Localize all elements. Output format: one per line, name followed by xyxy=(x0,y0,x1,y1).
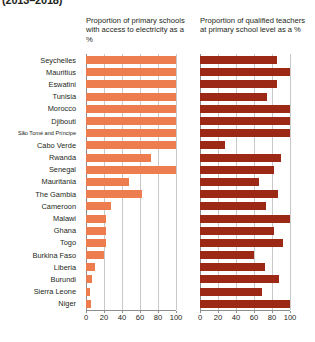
bar xyxy=(86,80,176,88)
axis-tick-label: 0 xyxy=(84,313,88,322)
bar xyxy=(200,56,277,64)
bar xyxy=(200,251,254,259)
bar xyxy=(86,141,176,149)
bar xyxy=(200,215,290,223)
category-label: Burkina Faso xyxy=(0,249,80,261)
bar-row xyxy=(86,91,176,103)
bar xyxy=(200,141,225,149)
axis-tick-label: 0 xyxy=(198,313,202,322)
bar xyxy=(86,300,91,308)
category-label: Morocco xyxy=(0,103,80,115)
bar-row xyxy=(200,176,290,188)
category-label: Togo xyxy=(0,237,80,249)
bar xyxy=(200,190,278,198)
bar-row xyxy=(86,188,176,200)
bar xyxy=(86,251,104,259)
bar xyxy=(86,68,176,76)
bar xyxy=(86,129,176,137)
bar-row xyxy=(200,78,290,90)
right-axis-ticks: 020406080100 xyxy=(200,311,290,323)
bar-row xyxy=(86,273,176,285)
axis-tick-label: 20 xyxy=(214,313,222,322)
category-label: Mauritania xyxy=(0,176,80,188)
category-label: Ghana xyxy=(0,225,80,237)
axis-tick-label: 80 xyxy=(268,313,276,322)
category-label: Cameroon xyxy=(0,200,80,212)
category-label: Burundi xyxy=(0,273,80,285)
right-chart-panel xyxy=(200,54,290,310)
bar-row xyxy=(200,115,290,127)
bar xyxy=(86,275,92,283)
bar-row xyxy=(200,127,290,139)
bar-row xyxy=(86,212,176,224)
category-label: The Gambia xyxy=(0,188,80,200)
bar-row xyxy=(200,152,290,164)
bar-row xyxy=(200,103,290,115)
bar xyxy=(200,263,265,271)
axis-tick-label: 40 xyxy=(232,313,240,322)
axis-tick-label: 60 xyxy=(250,313,258,322)
bar xyxy=(200,227,274,235)
bar xyxy=(200,166,274,174)
axis-tick-label: 20 xyxy=(100,313,108,322)
bar xyxy=(200,288,262,296)
bar xyxy=(200,154,281,162)
bar-row xyxy=(200,212,290,224)
bar xyxy=(86,56,176,64)
axis-tick-label: 100 xyxy=(170,313,183,322)
category-label: Tunisia xyxy=(0,91,80,103)
bar xyxy=(86,154,151,162)
bar-row xyxy=(86,127,176,139)
bar-row xyxy=(86,286,176,298)
bar xyxy=(86,239,106,247)
bar-row xyxy=(86,139,176,151)
category-label: Seychelles xyxy=(0,54,80,66)
bar-row xyxy=(200,286,290,298)
axis-tick-label: 60 xyxy=(136,313,144,322)
bar xyxy=(200,117,290,125)
bar-row xyxy=(86,237,176,249)
bar xyxy=(86,166,176,174)
bar-row xyxy=(86,249,176,261)
bar-row xyxy=(86,66,176,78)
category-label: Malawi xyxy=(0,212,80,224)
bar-row xyxy=(86,152,176,164)
bar-row xyxy=(86,176,176,188)
bar xyxy=(86,227,106,235)
bar-row xyxy=(200,54,290,66)
left-axis-ticks: 020406080100 xyxy=(86,311,176,323)
bar xyxy=(86,263,95,271)
left-chart-panel xyxy=(86,54,176,310)
bar-row xyxy=(200,164,290,176)
bar-row xyxy=(86,103,176,115)
bar xyxy=(86,202,111,210)
bar-row xyxy=(86,115,176,127)
category-label: Senegal xyxy=(0,164,80,176)
bar-row xyxy=(200,91,290,103)
left-panel-header: Proportion of primary schools with acces… xyxy=(86,16,190,44)
bar xyxy=(86,178,129,186)
gridline xyxy=(290,54,291,310)
figure-container: (2013–2018) Proportion of primary school… xyxy=(0,0,315,342)
bar xyxy=(200,202,266,210)
bar xyxy=(200,68,290,76)
right-bar-group xyxy=(200,54,290,310)
bar-row xyxy=(86,164,176,176)
gridline xyxy=(176,54,177,310)
bar xyxy=(86,190,142,198)
category-label: Rwanda xyxy=(0,152,80,164)
bar-row xyxy=(200,249,290,261)
bar xyxy=(86,105,176,113)
bar xyxy=(200,129,290,137)
bar-row xyxy=(200,225,290,237)
category-label: Cabo Verde xyxy=(0,139,80,151)
bar xyxy=(200,105,290,113)
category-label: Mauritius xyxy=(0,66,80,78)
category-label: Eswatini xyxy=(0,78,80,90)
bar xyxy=(200,93,267,101)
bar-row xyxy=(200,139,290,151)
bar xyxy=(200,178,259,186)
figure-title: (2013–2018) xyxy=(2,0,62,6)
bar-row xyxy=(200,298,290,310)
bar xyxy=(200,80,277,88)
